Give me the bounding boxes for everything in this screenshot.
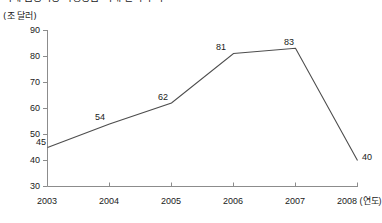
y-tick-label-40: 40 <box>20 156 40 165</box>
x-tick-label-2003: 2003 <box>37 197 57 206</box>
y-tick-label-90: 90 <box>20 26 40 35</box>
y-tick-label-30: 30 <box>20 182 40 191</box>
data-label-2008: 40 <box>362 153 372 162</box>
y-tick-label-80: 80 <box>20 52 40 61</box>
x-tick-label-2005: 2005 <box>161 197 181 206</box>
data-label-2007: 83 <box>284 38 294 47</box>
x-tick-label-2008: 2008 (연도) <box>337 197 382 206</box>
y-axis-ticks <box>43 31 48 187</box>
data-label-2005: 62 <box>158 93 168 102</box>
x-tick-label-2006: 2006 <box>223 197 243 206</box>
data-label-2006: 81 <box>216 43 226 52</box>
data-label-2004: 54 <box>95 113 105 122</box>
data-series-polyline <box>48 48 358 160</box>
x-axis-ticks <box>110 183 358 187</box>
y-tick-label-70: 70 <box>20 78 40 87</box>
data-label-2003: 45 <box>36 138 46 147</box>
x-tick-label-2007: 2007 <box>285 197 305 206</box>
x-tick-label-2004: 2004 <box>99 197 119 206</box>
y-tick-label-60: 60 <box>20 104 40 113</box>
